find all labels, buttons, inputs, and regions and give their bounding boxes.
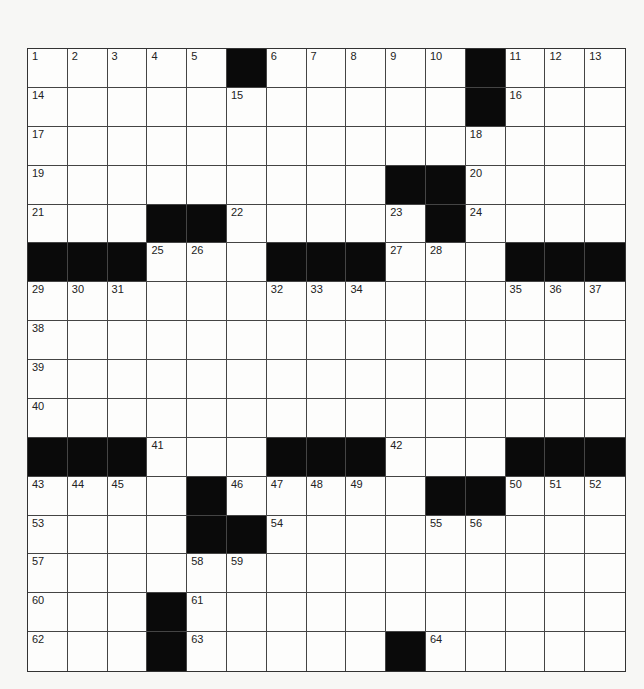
grid-cell[interactable] bbox=[187, 399, 227, 438]
grid-cell[interactable]: 63 bbox=[187, 632, 227, 671]
grid-cell[interactable] bbox=[68, 554, 108, 593]
grid-cell[interactable] bbox=[346, 399, 386, 438]
grid-cell[interactable] bbox=[307, 516, 347, 555]
grid-cell[interactable] bbox=[426, 399, 466, 438]
grid-cell[interactable] bbox=[187, 438, 227, 477]
grid-cell[interactable]: 42 bbox=[386, 438, 426, 477]
grid-cell[interactable]: 23 bbox=[386, 205, 426, 244]
grid-cell[interactable] bbox=[147, 399, 187, 438]
grid-cell[interactable]: 52 bbox=[585, 477, 625, 516]
grid-cell[interactable] bbox=[506, 166, 546, 205]
grid-cell[interactable]: 49 bbox=[346, 477, 386, 516]
grid-cell[interactable] bbox=[585, 399, 625, 438]
grid-cell[interactable] bbox=[147, 166, 187, 205]
grid-cell[interactable] bbox=[346, 593, 386, 632]
grid-cell[interactable] bbox=[545, 516, 585, 555]
grid-cell[interactable]: 15 bbox=[227, 88, 267, 127]
grid-cell[interactable] bbox=[187, 166, 227, 205]
grid-cell[interactable] bbox=[506, 360, 546, 399]
grid-cell[interactable] bbox=[506, 127, 546, 166]
grid-cell[interactable] bbox=[545, 360, 585, 399]
grid-cell[interactable] bbox=[227, 438, 267, 477]
grid-cell[interactable] bbox=[386, 516, 426, 555]
grid-cell[interactable] bbox=[267, 127, 307, 166]
grid-cell[interactable] bbox=[147, 554, 187, 593]
grid-cell[interactable] bbox=[585, 516, 625, 555]
grid-cell[interactable] bbox=[108, 166, 148, 205]
grid-cell[interactable] bbox=[346, 321, 386, 360]
grid-cell[interactable] bbox=[108, 205, 148, 244]
grid-cell[interactable] bbox=[426, 360, 466, 399]
grid-cell[interactable]: 55 bbox=[426, 516, 466, 555]
grid-cell[interactable]: 20 bbox=[466, 166, 506, 205]
grid-cell[interactable] bbox=[346, 127, 386, 166]
grid-cell[interactable] bbox=[346, 205, 386, 244]
grid-cell[interactable] bbox=[307, 360, 347, 399]
grid-cell[interactable] bbox=[227, 127, 267, 166]
grid-cell[interactable] bbox=[466, 593, 506, 632]
grid-cell[interactable]: 10 bbox=[426, 49, 466, 88]
grid-cell[interactable]: 8 bbox=[346, 49, 386, 88]
grid-cell[interactable] bbox=[585, 360, 625, 399]
grid-cell[interactable]: 60 bbox=[28, 593, 68, 632]
grid-cell[interactable]: 50 bbox=[506, 477, 546, 516]
grid-cell[interactable] bbox=[187, 360, 227, 399]
grid-cell[interactable]: 14 bbox=[28, 88, 68, 127]
grid-cell[interactable] bbox=[346, 166, 386, 205]
grid-cell[interactable]: 40 bbox=[28, 399, 68, 438]
grid-cell[interactable]: 6 bbox=[267, 49, 307, 88]
grid-cell[interactable]: 3 bbox=[108, 49, 148, 88]
grid-cell[interactable] bbox=[386, 554, 426, 593]
grid-cell[interactable] bbox=[545, 127, 585, 166]
grid-cell[interactable] bbox=[307, 205, 347, 244]
grid-cell[interactable]: 26 bbox=[187, 243, 227, 282]
grid-cell[interactable] bbox=[545, 205, 585, 244]
grid-cell[interactable]: 37 bbox=[585, 282, 625, 321]
grid-cell[interactable] bbox=[307, 127, 347, 166]
grid-cell[interactable] bbox=[545, 554, 585, 593]
grid-cell[interactable]: 33 bbox=[307, 282, 347, 321]
grid-cell[interactable]: 17 bbox=[28, 127, 68, 166]
grid-cell[interactable] bbox=[466, 282, 506, 321]
grid-cell[interactable] bbox=[68, 399, 108, 438]
grid-cell[interactable] bbox=[466, 321, 506, 360]
grid-cell[interactable] bbox=[147, 282, 187, 321]
grid-cell[interactable] bbox=[346, 632, 386, 671]
grid-cell[interactable] bbox=[307, 554, 347, 593]
grid-cell[interactable] bbox=[506, 321, 546, 360]
grid-cell[interactable]: 31 bbox=[108, 282, 148, 321]
grid-cell[interactable] bbox=[227, 282, 267, 321]
grid-cell[interactable] bbox=[585, 205, 625, 244]
grid-cell[interactable] bbox=[506, 632, 546, 671]
grid-cell[interactable]: 41 bbox=[147, 438, 187, 477]
grid-cell[interactable] bbox=[68, 88, 108, 127]
grid-cell[interactable] bbox=[307, 88, 347, 127]
grid-cell[interactable] bbox=[307, 166, 347, 205]
grid-cell[interactable]: 34 bbox=[346, 282, 386, 321]
grid-cell[interactable] bbox=[426, 554, 466, 593]
grid-cell[interactable]: 30 bbox=[68, 282, 108, 321]
grid-cell[interactable]: 24 bbox=[466, 205, 506, 244]
grid-cell[interactable]: 45 bbox=[108, 477, 148, 516]
grid-cell[interactable] bbox=[227, 632, 267, 671]
grid-cell[interactable]: 13 bbox=[585, 49, 625, 88]
grid-cell[interactable] bbox=[386, 477, 426, 516]
grid-cell[interactable] bbox=[426, 282, 466, 321]
grid-cell[interactable] bbox=[346, 360, 386, 399]
grid-cell[interactable] bbox=[585, 88, 625, 127]
grid-cell[interactable]: 58 bbox=[187, 554, 227, 593]
grid-cell[interactable]: 61 bbox=[187, 593, 227, 632]
grid-cell[interactable] bbox=[108, 127, 148, 166]
grid-cell[interactable] bbox=[585, 321, 625, 360]
grid-cell[interactable] bbox=[466, 554, 506, 593]
grid-cell[interactable]: 48 bbox=[307, 477, 347, 516]
grid-cell[interactable] bbox=[386, 360, 426, 399]
grid-cell[interactable] bbox=[108, 516, 148, 555]
grid-cell[interactable] bbox=[545, 593, 585, 632]
grid-cell[interactable] bbox=[147, 321, 187, 360]
grid-cell[interactable] bbox=[506, 516, 546, 555]
grid-cell[interactable] bbox=[267, 321, 307, 360]
grid-cell[interactable] bbox=[187, 127, 227, 166]
grid-cell[interactable] bbox=[506, 399, 546, 438]
grid-cell[interactable]: 28 bbox=[426, 243, 466, 282]
